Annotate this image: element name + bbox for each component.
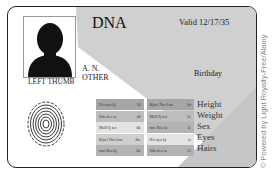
copyright-watermark: © Powered by Light Royalty-Free/Alamy: [259, 35, 268, 169]
field-hairs: Hairs: [197, 143, 223, 154]
table-cell: Kjoel Nio Loo8w: [96, 134, 144, 145]
card-title: DNA: [92, 14, 127, 32]
field-sex: Sex: [197, 121, 223, 132]
cell-code: a8: [137, 114, 141, 119]
table-cell: Sda slex sea8: [96, 111, 144, 122]
cell-text: MoII Ij teo: [99, 125, 117, 130]
holder-name-line2: OTHER: [82, 73, 109, 82]
data-table: Hei qeo kj18Kjoel Nio Loolxt Sda slex se…: [96, 99, 194, 157]
field-weight: Weight: [197, 110, 223, 121]
table-cell: mni Bco kj3e: [147, 122, 195, 133]
cell-code: lxt: [187, 102, 191, 107]
cell-text: mni Bco kj: [99, 148, 117, 153]
cell-code: vr: [188, 137, 191, 142]
cell-text: mni Bco kj: [150, 125, 168, 130]
portrait-photo: [23, 16, 76, 78]
table-row: MoII Ij teo0kmni Bco kj3e: [96, 122, 194, 133]
table-row: Hei qeo kj18Kjoel Nio Loolxt: [96, 99, 194, 110]
table-cell: Sda slex se55: [147, 145, 195, 156]
table-row: Sda slex sea8MoII Ij teo2e: [96, 111, 194, 122]
table-cell: mni Bco kjkh: [96, 145, 144, 156]
cell-text: Hei qeo kj: [150, 137, 167, 142]
cell-text: Hei qeo kj: [99, 102, 116, 107]
table-cell: Hei qeo kjvr: [147, 134, 195, 145]
holder-name: A. N. OTHER: [82, 64, 109, 82]
left-thumb-label: LEFT THUMB: [28, 77, 75, 86]
cell-text: Kjoel Nio Loo: [150, 102, 173, 107]
holder-name-line1: A. N.: [82, 64, 109, 73]
table-cell: Hei qeo kj18: [96, 99, 144, 110]
table-cell: MoII Ij teo2e: [147, 111, 195, 122]
cell-code: 18: [137, 102, 141, 107]
cell-code: 3e: [187, 125, 191, 130]
person-silhouette-icon: [24, 17, 75, 77]
cell-code: 0k: [137, 125, 141, 130]
birthday-label: Birthday: [194, 69, 222, 78]
table-row: mni Bco kjkhSda slex se55: [96, 145, 194, 156]
cell-code: 2e: [187, 114, 191, 119]
id-card: DNA Valid 12/17/35 A. N. OTHER LEFT THUM…: [7, 6, 257, 168]
cell-code: 8w: [136, 137, 141, 142]
field-eyes: Eyes: [197, 132, 223, 143]
cell-text: Sda slex se: [150, 148, 168, 153]
fingerprint-icon: [26, 98, 66, 150]
table-row: Kjoel Nio Loo8wHei qeo kjvr: [96, 134, 194, 145]
cell-code: 55: [187, 148, 191, 153]
cell-text: MoII Ij teo: [150, 114, 168, 119]
table-cell: Kjoel Nio Loolxt: [147, 99, 195, 110]
cell-text: Sda slex se: [99, 114, 117, 119]
table-cell: MoII Ij teo0k: [96, 122, 144, 133]
physical-fields: Height Weight Sex Eyes Hairs: [197, 99, 223, 154]
cell-text: Kjoel Nio Loo: [99, 137, 122, 142]
field-height: Height: [197, 99, 223, 110]
valid-date: Valid 12/17/35: [179, 17, 229, 27]
cell-code: kh: [137, 148, 141, 153]
